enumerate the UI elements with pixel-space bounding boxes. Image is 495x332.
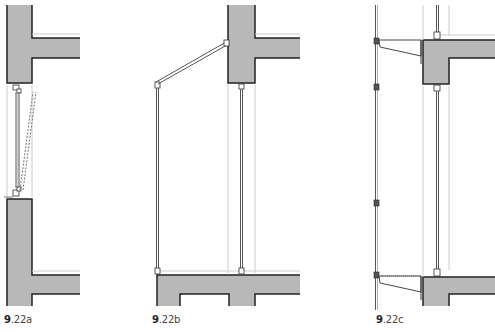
caption-9-22c: 9.22c bbox=[376, 314, 403, 325]
caption-9-22b: 9.22b bbox=[152, 314, 180, 325]
upper-slab bbox=[228, 5, 300, 83]
upper-slab bbox=[7, 5, 80, 83]
caption-number: 9 bbox=[152, 314, 159, 325]
lower-slab bbox=[423, 277, 495, 306]
figure-9-22b bbox=[155, 5, 300, 306]
caption-number: 9 bbox=[376, 314, 383, 325]
caption-suffix: .22a bbox=[11, 314, 32, 325]
caption-suffix: .22c bbox=[383, 314, 404, 325]
lower-slab bbox=[7, 199, 80, 306]
caption-number: 9 bbox=[4, 314, 11, 325]
figure-9-22a bbox=[4, 5, 80, 306]
upper-slab bbox=[423, 40, 495, 84]
caption-9-22a: 9.22a bbox=[4, 314, 32, 325]
diagram-canvas bbox=[0, 0, 495, 332]
figure-9-22c bbox=[374, 5, 495, 310]
caption-suffix: .22b bbox=[159, 314, 180, 325]
